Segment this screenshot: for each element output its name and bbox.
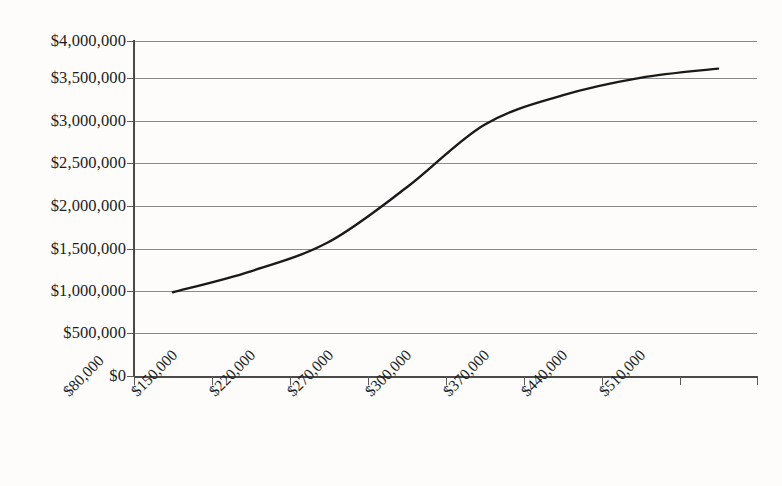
y-axis-label-4000000: $4,000,000	[8, 33, 126, 50]
y-tick-3500000	[127, 78, 134, 79]
y-axis-label-500000: $500,000	[8, 325, 126, 342]
y-tick-1500000	[127, 249, 134, 250]
y-axis-line	[133, 40, 135, 377]
y-axis-labels: $4,000,000 $3,500,000 $3,000,000 $2,500,…	[0, 0, 126, 486]
gridline-500000	[134, 333, 757, 334]
gridline-1500000	[134, 249, 757, 250]
y-axis-label-2000000: $2,000,000	[8, 198, 126, 215]
y-axis-label-3000000: $3,000,000	[8, 113, 126, 130]
y-tick-500000	[127, 333, 134, 334]
gridline-4000000	[134, 41, 757, 42]
line-chart: $4,000,000 $3,500,000 $3,000,000 $2,500,…	[0, 0, 782, 486]
x-tick-7	[680, 376, 681, 385]
y-tick-4000000	[127, 41, 134, 42]
y-tick-2500000	[127, 163, 134, 164]
gridline-3000000	[134, 121, 757, 122]
y-tick-1000000	[127, 291, 134, 292]
plot-area	[134, 41, 757, 376]
y-tick-0	[127, 376, 134, 377]
gridline-1000000	[134, 291, 757, 292]
y-axis-label-2500000: $2,500,000	[8, 155, 126, 172]
y-tick-3000000	[127, 121, 134, 122]
gridline-2000000	[134, 206, 757, 207]
y-axis-label-1500000: $1,500,000	[8, 241, 126, 258]
y-axis-label-1000000: $1,000,000	[8, 283, 126, 300]
gridline-2500000	[134, 163, 757, 164]
y-tick-2000000	[127, 206, 134, 207]
x-tick-8	[757, 376, 758, 385]
y-axis-label-3500000: $3,500,000	[8, 70, 126, 87]
gridline-3500000	[134, 78, 757, 79]
